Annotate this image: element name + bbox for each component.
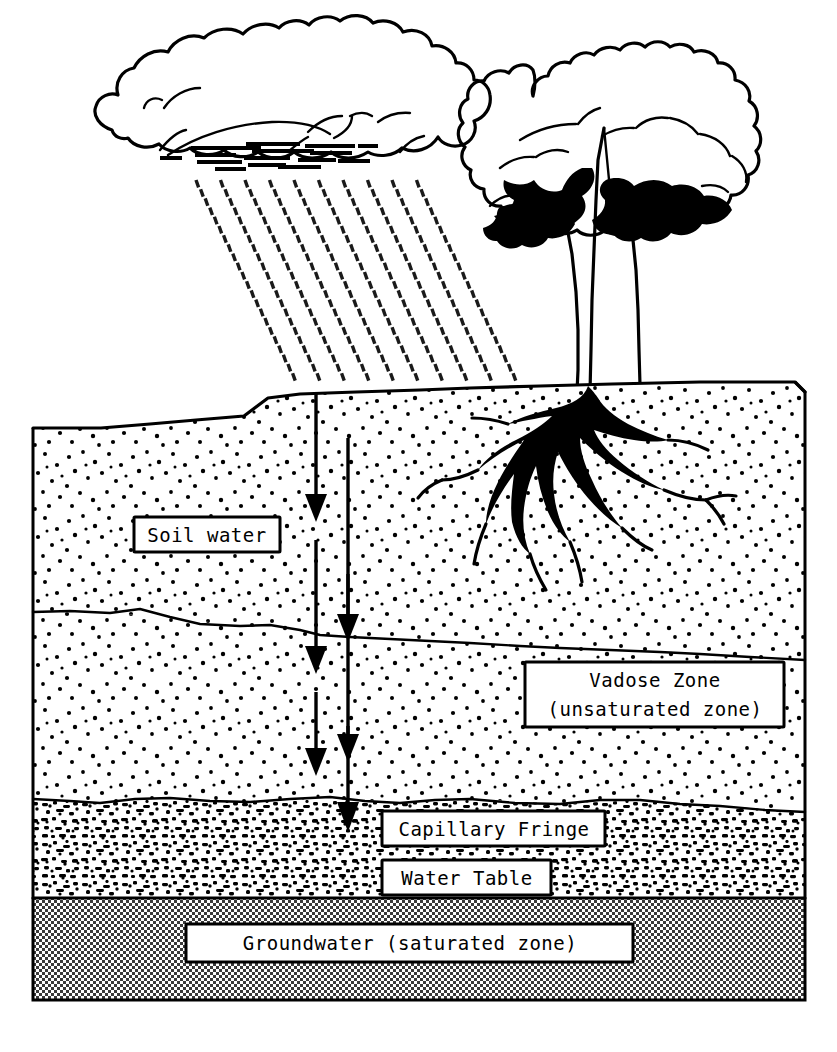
rain-dash <box>320 281 323 288</box>
rain-dash <box>312 217 315 224</box>
rain-dash <box>343 180 346 187</box>
rain-dash <box>299 189 302 196</box>
rain-dash <box>432 309 435 316</box>
rain-dash <box>293 373 296 380</box>
rain-dash <box>435 217 438 224</box>
rain-dash <box>214 217 217 224</box>
label-capillary-fringe-text: Capillary Fringe <box>398 818 589 840</box>
rain-cloud <box>95 16 490 169</box>
rain-dash <box>490 327 493 334</box>
rain-dash <box>342 226 345 233</box>
rain-dash <box>224 235 227 242</box>
rain-dash <box>481 309 484 316</box>
rain-dash <box>476 300 479 307</box>
rain-dash <box>357 355 360 362</box>
rain-dash <box>262 263 265 270</box>
rainfall-dashes <box>196 180 516 381</box>
rain-dash <box>323 189 326 196</box>
rain-dash <box>228 244 231 251</box>
rain-dash <box>420 235 423 242</box>
rain-dash <box>455 355 458 362</box>
rain-dash <box>414 272 417 279</box>
rain-dash <box>392 327 395 334</box>
rain-dash <box>251 290 254 297</box>
rain-dash <box>417 180 420 187</box>
rain-dash <box>288 217 291 224</box>
rain-dash <box>339 318 342 325</box>
rain-dash <box>286 263 289 270</box>
rain-dash <box>242 272 245 279</box>
rain-dash <box>253 244 256 251</box>
rain-dash <box>316 272 319 279</box>
rain-dash <box>456 309 459 316</box>
rain-dash <box>404 254 407 261</box>
rain-dash <box>430 208 433 215</box>
label-capillary-fringe: Capillary Fringe <box>382 811 605 846</box>
rain-dash <box>337 217 340 224</box>
rain-dash <box>410 217 413 224</box>
rain-dash <box>513 373 516 380</box>
rain-dash <box>225 189 228 196</box>
rain-dash <box>415 226 418 233</box>
rain-dash <box>398 290 401 297</box>
rain-dash <box>346 235 349 242</box>
rain-dash <box>342 373 345 380</box>
rain-dash <box>424 244 427 251</box>
rain-dash <box>247 281 250 288</box>
rain-dash <box>458 263 461 270</box>
rain-dash <box>245 180 248 187</box>
label-vadose-zone: Vadose Zone (unsaturated zone) <box>525 662 784 727</box>
rain-dash <box>308 355 311 362</box>
rain-dash <box>288 364 291 371</box>
rain-dash <box>397 189 400 196</box>
rain-dash <box>274 336 277 343</box>
rain-dash <box>273 235 276 242</box>
rain-dash <box>305 300 308 307</box>
rain-dash <box>484 364 487 371</box>
rain-dash <box>219 226 222 233</box>
rain-dash <box>349 290 352 297</box>
rain-dash <box>423 290 426 297</box>
rain-dash <box>412 318 415 325</box>
rain-dash <box>374 290 377 297</box>
rain-dash <box>201 189 204 196</box>
rain-dash <box>322 235 325 242</box>
rain-dash <box>276 290 279 297</box>
rain-dash <box>319 180 322 187</box>
rain-dash <box>411 364 414 371</box>
rain-dash <box>386 217 389 224</box>
rain-dash <box>271 281 274 288</box>
rain-dash <box>331 254 334 261</box>
rain-dash <box>388 318 391 325</box>
rain-dash <box>438 272 441 279</box>
rain-dash <box>311 263 314 270</box>
rain-dash <box>270 180 273 187</box>
rain-dash <box>352 198 355 205</box>
rain-dash <box>368 180 371 187</box>
rain-dash <box>365 272 368 279</box>
rain-dash <box>340 272 343 279</box>
rain-dash <box>294 180 297 187</box>
rain-dash <box>464 373 467 380</box>
rain-dash <box>489 373 492 380</box>
rain-dash <box>263 217 266 224</box>
rain-dash <box>337 364 340 371</box>
rain-dash <box>279 198 282 205</box>
rain-dash <box>205 198 208 205</box>
rain-dash <box>294 327 297 334</box>
rain-dash <box>270 327 273 334</box>
rain-dash <box>283 208 286 215</box>
rain-dash <box>282 254 285 261</box>
rain-dash <box>440 226 443 233</box>
rain-dash <box>250 189 253 196</box>
rain-dash <box>308 208 311 215</box>
rain-dash <box>237 263 240 270</box>
label-soil-water: Soil water <box>134 517 280 552</box>
rain-dash <box>421 336 424 343</box>
rain-dash <box>403 300 406 307</box>
rain-dash <box>401 346 404 353</box>
rain-dash <box>323 336 326 343</box>
rain-dash <box>355 254 358 261</box>
rain-dash <box>397 336 400 343</box>
rain-dash <box>260 309 263 316</box>
